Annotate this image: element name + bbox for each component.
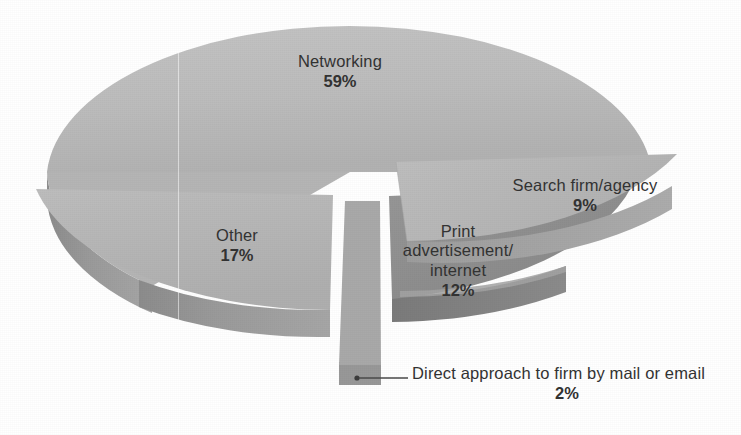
pie-chart-graphic: [0, 0, 741, 435]
pie-chart: Networking 59% Other 17% Print advertise…: [0, 0, 741, 435]
pie-slice-search-firm: [396, 154, 677, 263]
pie-slice-direct-approach: [339, 201, 381, 385]
